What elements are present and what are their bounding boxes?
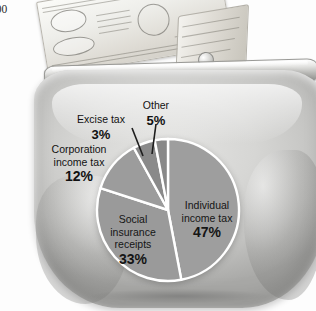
slice-label-social-insurance-receipts: Social insurance receipts 33% [104,213,162,267]
slice-label-corporation-income-tax: Corporation income tax 12% [42,143,116,184]
slice-label-other: Other 5% [136,99,176,128]
slice-value-excise-tax: 3% [72,127,130,142]
slice-label-individual-income-tax: Individual income tax 47% [176,199,238,240]
slice-value-individual-income-tax: 47% [176,225,238,240]
purse-drop-shadow [54,286,304,306]
slice-label-corp-line2: income tax [54,156,105,168]
slice-label-social-line2: insurance [110,226,156,238]
slice-value-other: 5% [136,113,176,128]
slice-label-social-line3: receipts [115,238,152,250]
slice-label-individual-line1: Individual [185,199,229,211]
slice-label-other-name: Other [143,99,169,111]
slice-label-social-line1: Social [119,213,148,225]
screenshot-canvas: 000 rs e [0,0,316,311]
slice-label-individual-line2: income tax [182,212,233,224]
slice-label-excise-tax: Excise tax 3% [72,113,130,142]
slice-label-corp-line1: Corporation [52,143,107,155]
slice-label-excise-tax-name: Excise tax [77,113,125,125]
slice-value-corporation-income-tax: 12% [42,169,116,184]
slice-value-social-insurance-receipts: 33% [104,252,162,267]
